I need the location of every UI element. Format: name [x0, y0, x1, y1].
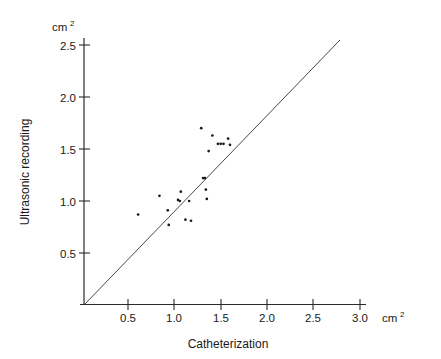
- y-unit-text: cm: [52, 21, 67, 33]
- data-point: [179, 190, 182, 193]
- data-point: [188, 200, 191, 203]
- y-tick-label-2-5: 2.5: [60, 40, 76, 52]
- x-unit-label: cm 2: [382, 310, 405, 324]
- scatter-plot-figure: 2.5 2.0 1.5 1.0 0.5 cm 2 0.5 1.0 1.5 2.0…: [0, 0, 441, 359]
- data-point: [167, 224, 170, 227]
- data-point: [179, 200, 182, 203]
- x-tick-label-2-5: 2.5: [305, 312, 321, 324]
- chart-svg: 2.5 2.0 1.5 1.0 0.5 cm 2 0.5 1.0 1.5 2.0…: [0, 0, 441, 359]
- data-point: [205, 188, 208, 191]
- x-tick-label-2-0: 2.0: [259, 312, 275, 324]
- x-unit-text: cm: [382, 312, 397, 324]
- data-point: [158, 194, 161, 197]
- y-tick-label-2-0: 2.0: [60, 92, 76, 104]
- data-point: [204, 177, 207, 180]
- data-point: [190, 219, 193, 222]
- data-point: [229, 143, 232, 146]
- y-tick-label-1-0: 1.0: [60, 196, 76, 208]
- data-point: [217, 142, 220, 145]
- data-points-layer: [137, 127, 232, 226]
- x-tick-label-0-5: 0.5: [120, 312, 136, 324]
- y-axis-title: Ultrasonic recording: [18, 119, 32, 226]
- data-point: [205, 198, 208, 201]
- y-tick-label-0-5: 0.5: [60, 248, 76, 260]
- x-tick-label-1-0: 1.0: [166, 312, 182, 324]
- x-tick-label-1-5: 1.5: [213, 312, 229, 324]
- x-axis-title: Catheterization: [188, 337, 269, 351]
- data-point: [184, 218, 187, 221]
- data-point: [227, 137, 230, 140]
- identity-line: [84, 40, 340, 305]
- data-point: [207, 150, 210, 153]
- y-tick-labels: 2.5 2.0 1.5 1.0 0.5: [60, 40, 76, 260]
- data-point: [137, 213, 140, 216]
- y-unit-superscript: 2: [70, 19, 75, 28]
- y-tick-label-1-5: 1.5: [60, 144, 76, 156]
- x-tick-label-3-0: 3.0: [352, 312, 368, 324]
- x-unit-superscript: 2: [400, 310, 405, 319]
- data-point: [166, 209, 169, 212]
- x-tick-labels: 0.5 1.0 1.5 2.0 2.5 3.0: [120, 312, 368, 324]
- data-point: [200, 127, 203, 130]
- data-point: [211, 134, 214, 137]
- data-point: [222, 142, 225, 145]
- y-unit-label: cm 2: [52, 19, 75, 33]
- data-point: [219, 142, 222, 145]
